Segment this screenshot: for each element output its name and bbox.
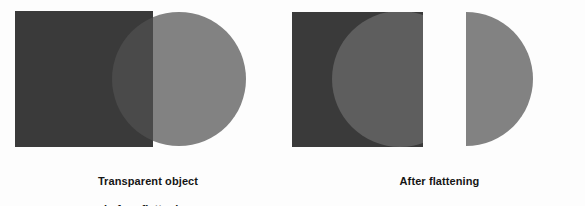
panel-after-flattening: After flattening xyxy=(292,0,585,206)
caption-before-line-2: before flattening xyxy=(2,202,294,206)
caption-after-line-1: After flattening xyxy=(293,174,585,188)
caption-after-flattening: After flattening xyxy=(293,160,585,202)
caption-before-flattening: Transparent object before flattening xyxy=(2,160,294,206)
caption-before-line-1: Transparent object xyxy=(2,174,294,188)
transparency-flattening-figure: Transparent object before flattening xyxy=(0,0,585,206)
panel-before-flattening: Transparent object before flattening xyxy=(0,0,292,206)
flattened-overlap-lens xyxy=(332,11,468,147)
